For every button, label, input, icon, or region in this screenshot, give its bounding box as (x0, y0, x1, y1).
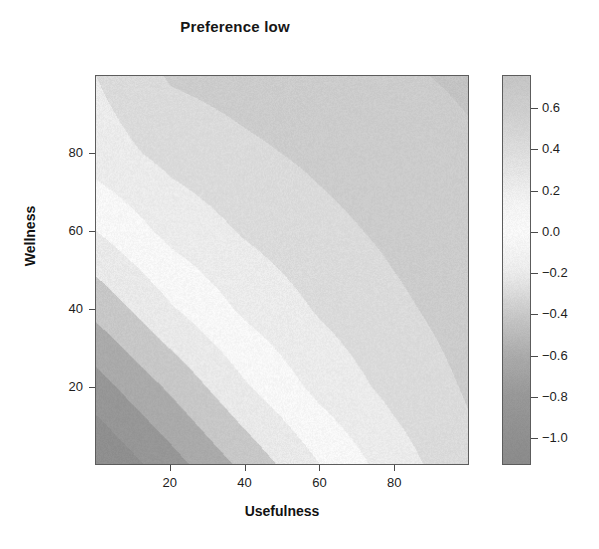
x-axis-tick-label: 60 (299, 475, 339, 490)
x-axis-tick (170, 465, 171, 471)
plot-area (95, 75, 469, 465)
colorbar-tick (531, 191, 538, 192)
colorbar-tick-label: 0.2 (542, 183, 560, 198)
colorbar-tick (531, 273, 538, 274)
colorbar-tick-label: −0.6 (542, 348, 568, 363)
colorbar-tick-label: −0.8 (542, 389, 568, 404)
colorbar-tick-label: −1.0 (542, 430, 568, 445)
colorbar-tick (531, 108, 538, 109)
y-axis-tick-label: 40 (49, 301, 83, 316)
colorbar-tick-label: 0.0 (542, 224, 560, 239)
colorbar-tick (531, 149, 538, 150)
colorbar-tick (531, 314, 538, 315)
colorbar-tick-label: −0.2 (542, 265, 568, 280)
contour-surface (96, 76, 468, 464)
y-axis-tick (89, 387, 95, 388)
colorbar-gradient (502, 75, 531, 465)
colorbar-tick-label: 0.6 (542, 100, 560, 115)
x-axis-tick (245, 465, 246, 471)
colorbar-tick (531, 356, 538, 357)
y-axis-tick (89, 153, 95, 154)
y-axis-tick-label: 80 (49, 145, 83, 160)
page-title: Preference low (0, 18, 470, 35)
x-axis-tick (319, 465, 320, 471)
y-axis-tick (89, 309, 95, 310)
x-axis-tick-label: 80 (374, 475, 414, 490)
y-axis-tick-label: 20 (49, 379, 83, 394)
colorbar-tick (531, 397, 538, 398)
colorbar-tick-label: −0.4 (542, 306, 568, 321)
colorbar-tick (531, 438, 538, 439)
x-axis-tick-label: 20 (150, 475, 190, 490)
x-axis-label: Usefulness (95, 503, 469, 519)
colorbar (502, 75, 531, 465)
y-axis-tick-label: 60 (49, 223, 83, 238)
colorbar-tick-label: 0.4 (542, 141, 560, 156)
x-axis-tick (394, 465, 395, 471)
x-axis-tick-label: 40 (225, 475, 265, 490)
y-axis-tick (89, 231, 95, 232)
colorbar-tick (531, 232, 538, 233)
y-axis-label: Wellness (22, 146, 38, 326)
